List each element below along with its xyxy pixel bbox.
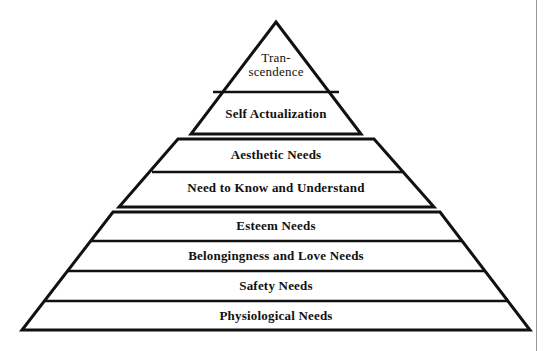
tier-label-belongingness-and-love-needs: Belongingness and Love Needs — [111, 249, 441, 263]
figure-canvas: Tran- scendence Self Actualization Aesth… — [0, 0, 559, 351]
tier-label-aesthetic-needs: Aesthetic Needs — [176, 148, 376, 162]
tier-label-need-to-know-and-understand: Need to Know and Understand — [126, 181, 426, 195]
tier-label-esteem-needs: Esteem Needs — [176, 219, 376, 233]
tier-label-safety-needs: Safety Needs — [176, 279, 376, 293]
tier-label-physiological-needs: Physiological Needs — [151, 309, 401, 323]
tier-label-transcendence: Tran- scendence — [216, 51, 336, 79]
tier-label-self-actualization: Self Actualization — [186, 107, 366, 121]
